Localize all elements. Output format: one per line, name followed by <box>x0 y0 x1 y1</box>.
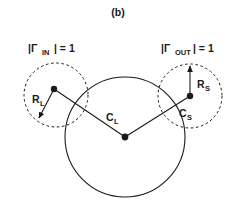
gamma-out-prefix: |Γ <box>161 42 171 54</box>
r-l-label: R L <box>32 93 45 108</box>
c-s-base: C <box>179 107 187 119</box>
r-l-subscript: L <box>40 99 45 108</box>
unit-circle-center-dot <box>122 134 129 141</box>
gamma-in-prefix: |Γ <box>28 42 38 54</box>
r-l-base: R <box>32 93 40 105</box>
c-l-label: C L <box>106 111 119 126</box>
r-s-subscript: S <box>205 84 210 93</box>
c-s-label: C S <box>179 107 192 122</box>
r-s-label: R S <box>197 78 210 93</box>
figure-caption: (b) <box>111 6 124 18</box>
c-l-vector <box>54 89 125 137</box>
c-l-base: C <box>106 111 114 123</box>
gamma-out-suffix: | = 1 <box>193 42 214 54</box>
load-circle-center-dot <box>51 86 57 92</box>
gamma-in-subscript: IN <box>42 48 50 57</box>
diagram-svg: (b) |Γ IN | = 1 |Γ OUT | = 1 <box>0 0 236 207</box>
figure-container: (b) |Γ IN | = 1 |Γ OUT | = 1 <box>0 0 236 207</box>
c-l-subscript: L <box>114 117 119 126</box>
gamma-in-suffix: | = 1 <box>54 42 75 54</box>
gamma-in-label: |Γ IN | = 1 <box>28 42 75 57</box>
source-circle-center-dot <box>187 93 193 99</box>
c-s-subscript: S <box>187 113 192 122</box>
gamma-out-subscript: OUT <box>175 48 191 57</box>
r-s-base: R <box>197 78 205 90</box>
gamma-out-label: |Γ OUT | = 1 <box>161 42 214 57</box>
